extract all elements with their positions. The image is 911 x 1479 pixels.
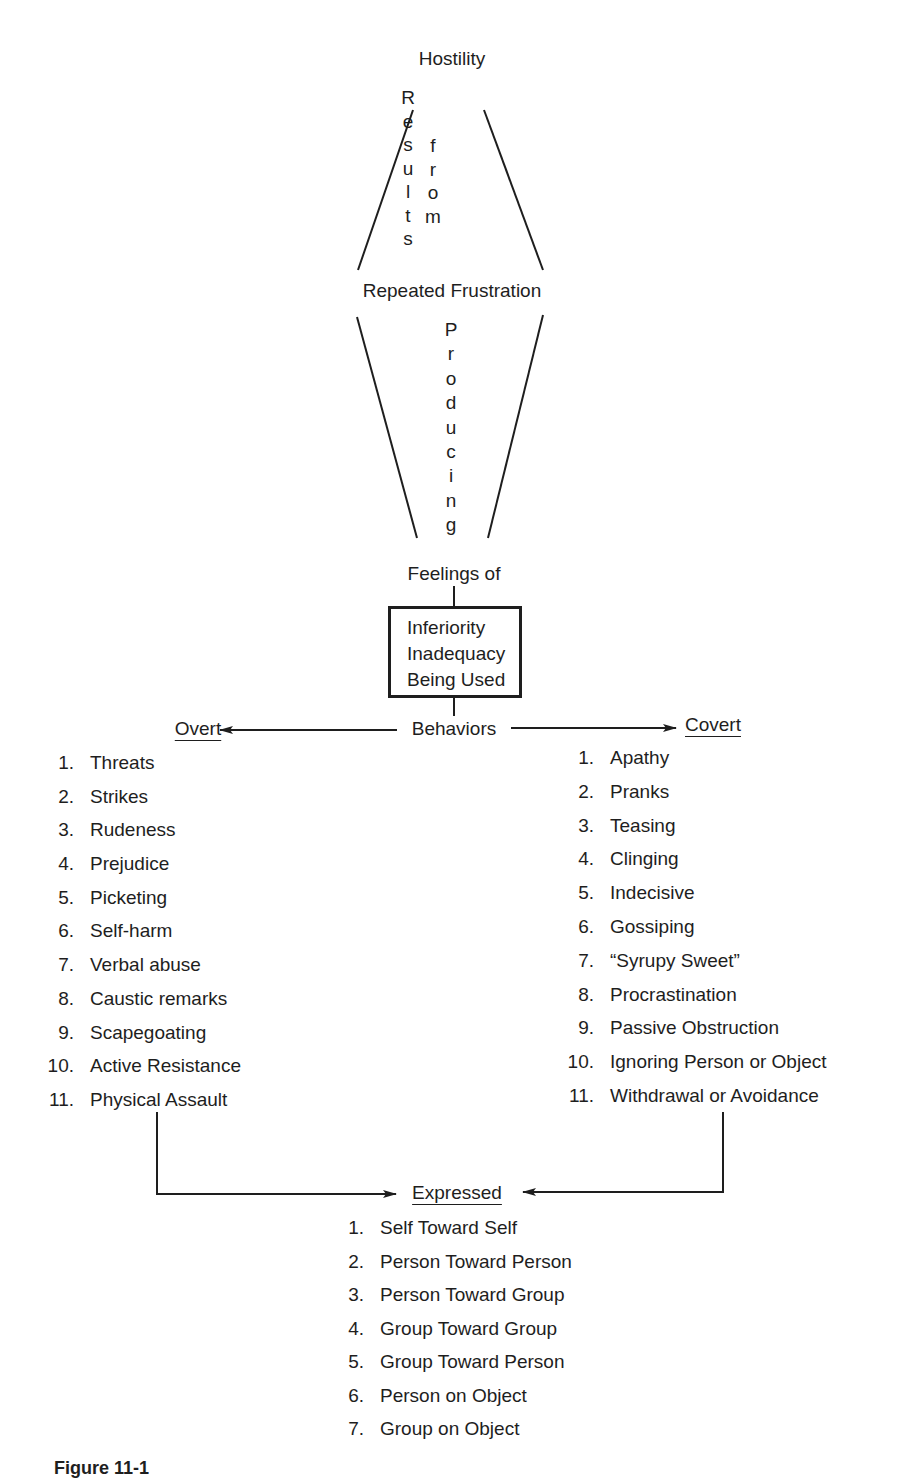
item-number: 6. bbox=[34, 920, 74, 942]
item-number: 5. bbox=[554, 882, 594, 904]
letter: s bbox=[398, 227, 418, 251]
item-number: 2. bbox=[554, 781, 594, 803]
letter: l bbox=[398, 180, 418, 204]
letter: i bbox=[441, 464, 461, 488]
node-hostility: Hostility bbox=[419, 48, 486, 70]
funnel-bottom-right-line bbox=[488, 315, 543, 538]
item-label: Self-harm bbox=[90, 920, 172, 942]
letter: P bbox=[441, 318, 461, 342]
feelings-box: Inferiority Inadequacy Being Used bbox=[388, 606, 522, 698]
overt-behaviors-list: 1.Threats2.Strikes3.Rudeness4.Prejudice5… bbox=[40, 752, 340, 1123]
item-label: Caustic remarks bbox=[90, 988, 227, 1010]
item-label: Physical Assault bbox=[90, 1089, 227, 1111]
letter: o bbox=[441, 367, 461, 391]
item-number: 3. bbox=[34, 819, 74, 841]
item-label: Apathy bbox=[610, 747, 669, 769]
overt-list-item: 2.Strikes bbox=[40, 786, 340, 820]
item-number: 8. bbox=[554, 984, 594, 1006]
item-number: 2. bbox=[324, 1251, 364, 1273]
item-label: Group on Object bbox=[380, 1418, 519, 1440]
item-number: 1. bbox=[34, 752, 74, 774]
link-label-results: Results bbox=[398, 86, 418, 251]
overt-list-item: 1.Threats bbox=[40, 752, 340, 786]
letter: d bbox=[441, 391, 461, 415]
expressed-list-item: 4.Group Toward Group bbox=[330, 1318, 650, 1352]
overt-list-item: 3.Rudeness bbox=[40, 819, 340, 853]
item-number: 7. bbox=[554, 950, 594, 972]
covert-list-item: 4.Clinging bbox=[560, 848, 900, 882]
feeling-inadequacy: Inadequacy bbox=[399, 641, 519, 667]
expressed-list-item: 2.Person Toward Person bbox=[330, 1251, 650, 1285]
item-number: 6. bbox=[554, 916, 594, 938]
item-number: 2. bbox=[34, 786, 74, 808]
covert-list-item: 10.Ignoring Person or Object bbox=[560, 1051, 900, 1085]
covert-list-item: 7.“Syrupy Sweet” bbox=[560, 950, 900, 984]
arrow-overt-to-expressed bbox=[157, 1112, 396, 1194]
item-label: Pranks bbox=[610, 781, 669, 803]
item-number: 5. bbox=[324, 1351, 364, 1373]
item-label: Gossiping bbox=[610, 916, 695, 938]
item-label: Withdrawal or Avoidance bbox=[610, 1085, 819, 1107]
item-label: Prejudice bbox=[90, 853, 169, 875]
overt-list-item: 6.Self-harm bbox=[40, 920, 340, 954]
item-label: Passive Obstruction bbox=[610, 1017, 779, 1039]
letter: e bbox=[398, 110, 418, 134]
letter: t bbox=[398, 204, 418, 228]
item-number: 8. bbox=[34, 988, 74, 1010]
letter: u bbox=[398, 157, 418, 181]
item-number: 5. bbox=[34, 887, 74, 909]
covert-heading: Covert bbox=[685, 714, 741, 736]
feelings-label: Feelings of bbox=[408, 563, 501, 585]
covert-list-item: 11.Withdrawal or Avoidance bbox=[560, 1085, 900, 1119]
item-label: Rudeness bbox=[90, 819, 176, 841]
letter: R bbox=[398, 86, 418, 110]
letter: f bbox=[423, 134, 443, 158]
feeling-being-used: Being Used bbox=[399, 667, 519, 693]
item-label: Teasing bbox=[610, 815, 676, 837]
item-label: Ignoring Person or Object bbox=[610, 1051, 827, 1073]
overt-heading: Overt bbox=[175, 718, 221, 740]
letter: u bbox=[441, 416, 461, 440]
item-number: 4. bbox=[554, 848, 594, 870]
funnel-bottom-left-line bbox=[357, 317, 417, 538]
item-label: Active Resistance bbox=[90, 1055, 241, 1077]
item-number: 7. bbox=[324, 1418, 364, 1440]
item-label: Verbal abuse bbox=[90, 954, 201, 976]
item-number: 9. bbox=[554, 1017, 594, 1039]
letter: r bbox=[423, 158, 443, 182]
arrow-covert-to-expressed bbox=[523, 1112, 723, 1192]
item-label: Procrastination bbox=[610, 984, 737, 1006]
item-number: 1. bbox=[554, 747, 594, 769]
item-number: 9. bbox=[34, 1022, 74, 1044]
node-repeated-frustration: Repeated Frustration bbox=[363, 280, 542, 302]
item-label: Picketing bbox=[90, 887, 167, 909]
covert-list-item: 1.Apathy bbox=[560, 747, 900, 781]
item-number: 4. bbox=[34, 853, 74, 875]
letter: m bbox=[423, 205, 443, 229]
item-number: 11. bbox=[34, 1089, 74, 1111]
covert-list-item: 2.Pranks bbox=[560, 781, 900, 815]
expressed-list: 1.Self Toward Self2.Person Toward Person… bbox=[330, 1217, 650, 1452]
link-label-producing: Producing bbox=[441, 318, 461, 538]
letter: s bbox=[398, 133, 418, 157]
item-number: 6. bbox=[324, 1385, 364, 1407]
overt-list-item: 7.Verbal abuse bbox=[40, 954, 340, 988]
letter: o bbox=[423, 181, 443, 205]
overt-list-item: 11.Physical Assault bbox=[40, 1089, 340, 1123]
expressed-list-item: 5.Group Toward Person bbox=[330, 1351, 650, 1385]
expressed-list-item: 6.Person on Object bbox=[330, 1385, 650, 1419]
item-label: Self Toward Self bbox=[380, 1217, 517, 1239]
item-number: 11. bbox=[554, 1085, 594, 1107]
expressed-list-item: 3.Person Toward Group bbox=[330, 1284, 650, 1318]
item-label: Person Toward Group bbox=[380, 1284, 564, 1306]
letter: n bbox=[441, 489, 461, 513]
item-number: 1. bbox=[324, 1217, 364, 1239]
item-label: Scapegoating bbox=[90, 1022, 206, 1044]
behaviors-label: Behaviors bbox=[412, 718, 497, 740]
funnel-top-right-line bbox=[484, 110, 543, 270]
item-number: 3. bbox=[324, 1284, 364, 1306]
item-number: 7. bbox=[34, 954, 74, 976]
overt-list-item: 10.Active Resistance bbox=[40, 1055, 340, 1089]
overt-list-item: 4.Prejudice bbox=[40, 853, 340, 887]
overt-list-item: 8.Caustic remarks bbox=[40, 988, 340, 1022]
